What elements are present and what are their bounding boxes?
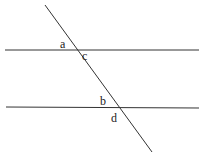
angle-label-b: b bbox=[100, 94, 106, 108]
transversal-line bbox=[45, 5, 152, 152]
angle-label-a: a bbox=[60, 37, 66, 51]
diagram-canvas: a c b d bbox=[0, 0, 201, 155]
angle-label-c: c bbox=[82, 49, 87, 63]
angle-label-d: d bbox=[111, 111, 117, 125]
